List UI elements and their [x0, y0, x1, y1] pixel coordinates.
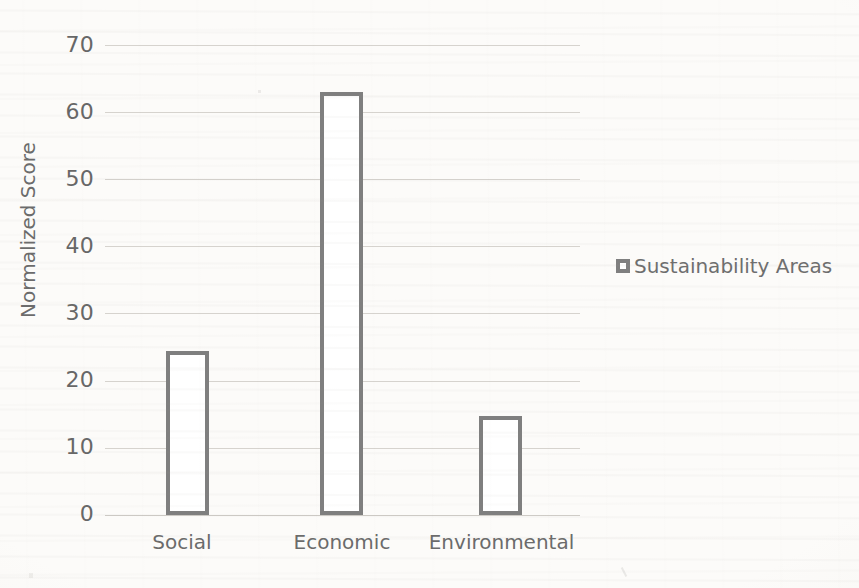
y-tick-label: 40 — [38, 233, 94, 258]
y-tick-label: 50 — [38, 166, 94, 191]
x-tick-label-economic: Economic — [282, 530, 402, 554]
y-tick-label: 60 — [38, 99, 94, 124]
plot-area — [105, 45, 580, 515]
gridline-70 — [105, 45, 580, 46]
gridline-baseline-0 — [105, 515, 580, 516]
chart-screenshot: Normalized Score 70 60 50 40 30 20 10 0 — [0, 0, 859, 588]
y-axis-tick-labels: 70 60 50 40 30 20 10 0 — [30, 45, 94, 515]
y-tick-label: 10 — [38, 434, 94, 459]
y-tick-label: 20 — [38, 367, 94, 392]
x-tick-label-environmental: Environmental — [419, 530, 584, 554]
y-tick-label: 70 — [38, 32, 94, 57]
bar-environmental[interactable] — [479, 416, 522, 515]
chart-legend: Sustainability Areas — [616, 256, 832, 276]
legend-swatch-icon — [616, 259, 630, 273]
x-tick-label-social: Social — [122, 530, 242, 554]
bar-social[interactable] — [166, 351, 209, 515]
legend-label-sustainability-areas: Sustainability Areas — [634, 256, 832, 276]
bar-economic[interactable] — [320, 92, 363, 515]
y-tick-label: 0 — [38, 501, 94, 526]
bar-chart: Normalized Score 70 60 50 40 30 20 10 0 — [0, 0, 859, 588]
y-tick-label: 30 — [38, 300, 94, 325]
